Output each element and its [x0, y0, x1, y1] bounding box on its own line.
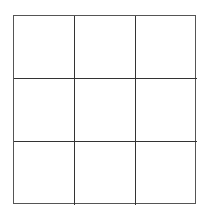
cell-r2-c1[interactable]: [14, 79, 75, 142]
cell-r3-c3[interactable]: [136, 142, 197, 205]
cell-r1-c1[interactable]: [14, 16, 75, 79]
cell-r2-c2[interactable]: [75, 79, 136, 142]
cell-r3-c2[interactable]: [75, 142, 136, 205]
cell-r1-c3[interactable]: [136, 16, 197, 79]
game-board: [13, 15, 196, 204]
cell-r1-c2[interactable]: [75, 16, 136, 79]
cell-r3-c1[interactable]: [14, 142, 75, 205]
cell-r2-c3[interactable]: [136, 79, 197, 142]
